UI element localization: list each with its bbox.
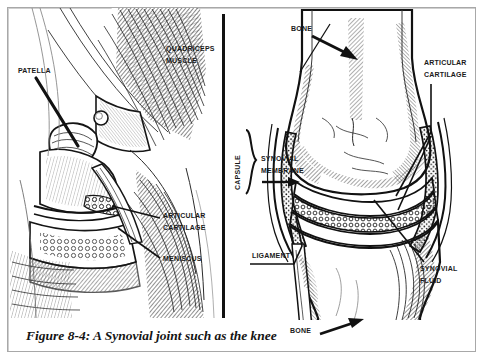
label-capsule: Capsule <box>231 132 243 190</box>
label-bone-bottom: Bone <box>290 324 311 336</box>
panel-divider <box>222 14 225 318</box>
figure-container: Patella Quadriceps Muscle Articular Cart… <box>0 0 485 364</box>
label-meniscus: Meniscus <box>163 252 202 264</box>
label-articular-cartilage-left: Articular Cartilage <box>163 209 219 232</box>
figure-caption: Figure 8-4: A Synovial joint such as the… <box>26 328 277 344</box>
label-ligament: Ligament <box>252 249 290 261</box>
label-synovial-fluid: Synovial Fluid <box>420 262 472 285</box>
label-synovial-membrane: Synovial Membrane <box>261 152 313 175</box>
label-quadriceps-muscle: Quadriceps Muscle <box>166 42 222 65</box>
label-patella: Patella <box>18 64 51 76</box>
label-bone-top: Bone <box>291 22 312 34</box>
label-articular-cartilage-right: Articular Cartilage <box>424 56 482 79</box>
label-capsule-text: Capsule <box>231 155 242 190</box>
